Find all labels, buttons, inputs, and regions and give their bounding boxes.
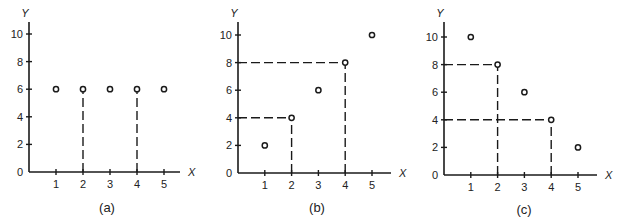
y-tick-label: 8 [432, 59, 438, 71]
chart-panel-a: 024681012345YX(a) [11, 7, 196, 215]
y-tick-label: 2 [432, 141, 438, 153]
x-tick-label: 3 [521, 181, 527, 193]
data-point-marker [522, 90, 527, 95]
data-point-marker [575, 145, 580, 150]
y-tick-label: 6 [17, 83, 23, 95]
y-tick-label: 2 [17, 138, 23, 150]
data-point-marker [53, 87, 58, 92]
data-point-marker [107, 87, 112, 92]
panel-caption: (b) [309, 200, 325, 215]
data-point-marker [161, 87, 166, 92]
y-tick-label: 0 [17, 166, 23, 178]
y-tick-label: 4 [17, 111, 23, 123]
x-tick-label: 3 [315, 179, 321, 191]
panel-caption: (a) [99, 200, 115, 215]
y-tick-label: 10 [426, 31, 438, 43]
x-tick-label: 2 [80, 178, 86, 190]
data-point-marker [495, 62, 500, 67]
chart-panel-c: 024681012345YX(c) [426, 7, 613, 217]
x-tick-label: 5 [369, 179, 375, 191]
x-tick-label: 2 [289, 179, 295, 191]
data-point-marker [549, 117, 554, 122]
data-point-marker [262, 143, 267, 148]
y-axis-label: Y [436, 7, 444, 19]
y-tick-label: 0 [432, 169, 438, 181]
x-axis-label: X [398, 167, 407, 179]
x-tick-label: 4 [134, 178, 140, 190]
x-tick-label: 4 [342, 179, 348, 191]
chart-panel-b: 024681012345YX(b) [220, 7, 407, 215]
y-tick-label: 8 [17, 56, 23, 68]
y-axis-label: Y [21, 7, 29, 19]
x-tick-label: 1 [262, 179, 268, 191]
y-tick-label: 4 [226, 112, 232, 124]
x-tick-label: 5 [161, 178, 167, 190]
y-axis-label: Y [230, 7, 238, 19]
data-point-marker [343, 60, 348, 65]
y-tick-label: 2 [226, 139, 232, 151]
x-tick-label: 3 [107, 178, 113, 190]
y-tick-label: 10 [220, 29, 232, 41]
y-tick-label: 0 [226, 167, 232, 179]
data-point-marker [316, 88, 321, 93]
x-tick-label: 1 [53, 178, 59, 190]
figure-three-scatter-panels: 024681012345YX(a)024681012345YX(b)024681… [0, 0, 621, 223]
x-axis-label: X [187, 166, 196, 178]
y-tick-label: 6 [226, 84, 232, 96]
x-tick-label: 5 [575, 181, 581, 193]
y-tick-label: 4 [432, 114, 438, 126]
y-tick-label: 10 [11, 28, 23, 40]
data-point-marker [80, 87, 85, 92]
x-tick-label: 1 [468, 181, 474, 193]
y-tick-label: 8 [226, 57, 232, 69]
data-point-marker [289, 115, 294, 120]
panel-caption: (c) [516, 202, 531, 217]
data-point-marker [134, 87, 139, 92]
data-point-marker [369, 32, 374, 37]
x-tick-label: 4 [548, 181, 554, 193]
x-axis-label: X [604, 169, 613, 181]
data-point-marker [468, 34, 473, 39]
y-tick-label: 6 [432, 86, 438, 98]
x-tick-label: 2 [495, 181, 501, 193]
